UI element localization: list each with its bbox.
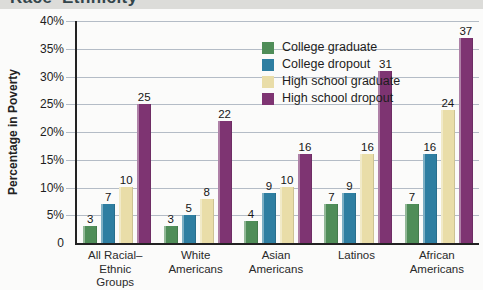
- legend-item: High school dropout: [262, 92, 400, 105]
- x-category-label: Latinos: [316, 249, 396, 290]
- bar-value-label: 16: [299, 141, 312, 153]
- bar: [137, 104, 151, 243]
- plot-area: 371025358224910167916317162437 College g…: [75, 21, 479, 245]
- bar-with-label: 10: [119, 174, 134, 243]
- y-tick-label: 0: [0, 236, 64, 250]
- bar: [423, 154, 437, 243]
- bar-value-label: 16: [361, 141, 374, 153]
- legend-item: College graduate: [262, 41, 400, 54]
- poverty-bar-chart: Percentage in Poverty 05%10%15%20%25%30%…: [0, 9, 483, 286]
- legend-swatch: [262, 93, 274, 105]
- bar: [164, 226, 178, 243]
- bar: [441, 110, 455, 243]
- legend-item: College dropout: [262, 58, 400, 71]
- bar-group: 7162437: [399, 25, 479, 243]
- x-category-label-line: Groups: [75, 276, 155, 290]
- x-category-label: All Racial–EthnicGroups: [75, 249, 155, 290]
- bar-value-label: 7: [105, 191, 111, 203]
- bar-with-label: 9: [262, 180, 277, 243]
- bar-group: 371025: [77, 91, 157, 243]
- bar-value-label: 9: [266, 180, 272, 192]
- x-category-label-line: White: [155, 249, 235, 263]
- bar-value-label: 37: [459, 25, 472, 37]
- bar-with-label: 4: [244, 208, 259, 243]
- bar: [298, 154, 312, 243]
- legend-label: College dropout: [282, 58, 370, 71]
- legend-label: College graduate: [282, 41, 377, 54]
- x-category-label-line: Americans: [155, 263, 235, 277]
- bar-with-label: 10: [280, 174, 295, 243]
- y-tick-label: 35%: [0, 42, 64, 56]
- x-category-label: AfricanAmericans: [397, 249, 477, 290]
- bar: [324, 204, 338, 243]
- legend-swatch: [262, 76, 274, 88]
- bar-with-label: 7: [324, 191, 339, 243]
- bar-with-label: 25: [137, 91, 152, 243]
- bar-group: 491016: [238, 141, 318, 243]
- bar-with-label: 5: [181, 202, 196, 243]
- legend-label: High school dropout: [282, 92, 393, 105]
- y-axis-tick: [66, 188, 75, 189]
- bar: [119, 187, 133, 243]
- bar-value-label: 5: [185, 202, 191, 214]
- legend-item: High school graduate: [262, 75, 400, 88]
- bar: [244, 221, 258, 243]
- x-category-label-line: Americans: [397, 263, 477, 277]
- bar-value-label: 3: [167, 213, 173, 225]
- legend: College graduateCollege dropoutHigh scho…: [262, 41, 400, 109]
- y-tick-label: 30%: [0, 70, 64, 84]
- bar-value-label: 22: [218, 108, 231, 120]
- bar-with-label: 22: [217, 108, 232, 243]
- x-category-label: WhiteAmericans: [155, 249, 235, 290]
- y-axis-tick: [66, 160, 75, 161]
- bar: [101, 204, 115, 243]
- bar: [83, 226, 97, 243]
- y-axis-tick: [66, 49, 75, 50]
- clipped-page-heading: Race–Ethnicity: [0, 0, 483, 9]
- bar: [342, 193, 356, 243]
- legend-swatch: [262, 42, 274, 54]
- y-axis-tick: [66, 132, 75, 133]
- bar-with-label: 16: [422, 141, 437, 243]
- bar-value-label: 7: [409, 191, 415, 203]
- bar-with-label: 24: [440, 97, 455, 243]
- bar: [182, 215, 196, 243]
- bar-with-label: 16: [298, 141, 313, 243]
- bar-with-label: 7: [101, 191, 116, 243]
- bar-value-label: 3: [87, 213, 93, 225]
- bar-with-label: 9: [342, 180, 357, 243]
- clipped-page-heading-text: Race–Ethnicity: [10, 0, 137, 8]
- legend-swatch: [262, 59, 274, 71]
- bar-with-label: 16: [360, 141, 375, 243]
- bar-with-label: 7: [404, 191, 419, 243]
- bar-value-label: 4: [248, 208, 254, 220]
- bar-with-label: 3: [163, 213, 178, 243]
- y-tick-label: 25%: [0, 97, 64, 111]
- bar-value-label: 10: [281, 174, 294, 186]
- bar: [459, 38, 473, 243]
- bar-value-label: 16: [423, 141, 436, 153]
- bar: [360, 154, 374, 243]
- bar-value-label: 24: [441, 97, 454, 109]
- x-category-label-line: Americans: [236, 263, 316, 277]
- bar-with-label: 37: [458, 25, 473, 243]
- y-axis-tick-labels: 05%10%15%20%25%30%35%40%: [0, 21, 64, 243]
- y-axis-tick: [66, 104, 75, 105]
- y-tick-label: 10%: [0, 181, 64, 195]
- bar-value-label: 25: [138, 91, 151, 103]
- y-axis-tick: [66, 215, 75, 216]
- x-category-label-line: Asian: [236, 249, 316, 263]
- bar-with-label: 3: [83, 213, 98, 243]
- bar-value-label: 8: [203, 186, 209, 198]
- legend-label: High school graduate: [282, 75, 400, 88]
- y-axis-tick: [66, 21, 75, 22]
- bar: [405, 204, 419, 243]
- x-category-label-line: Latinos: [316, 249, 396, 263]
- y-tick-label: 5%: [0, 208, 64, 222]
- bar: [200, 199, 214, 243]
- y-tick-label: 15%: [0, 153, 64, 167]
- y-tick-label: 20%: [0, 125, 64, 139]
- y-axis-tick: [66, 77, 75, 78]
- x-axis-category-labels: All Racial–EthnicGroupsWhiteAmericansAsi…: [75, 249, 477, 290]
- x-category-label-line: African: [397, 249, 477, 263]
